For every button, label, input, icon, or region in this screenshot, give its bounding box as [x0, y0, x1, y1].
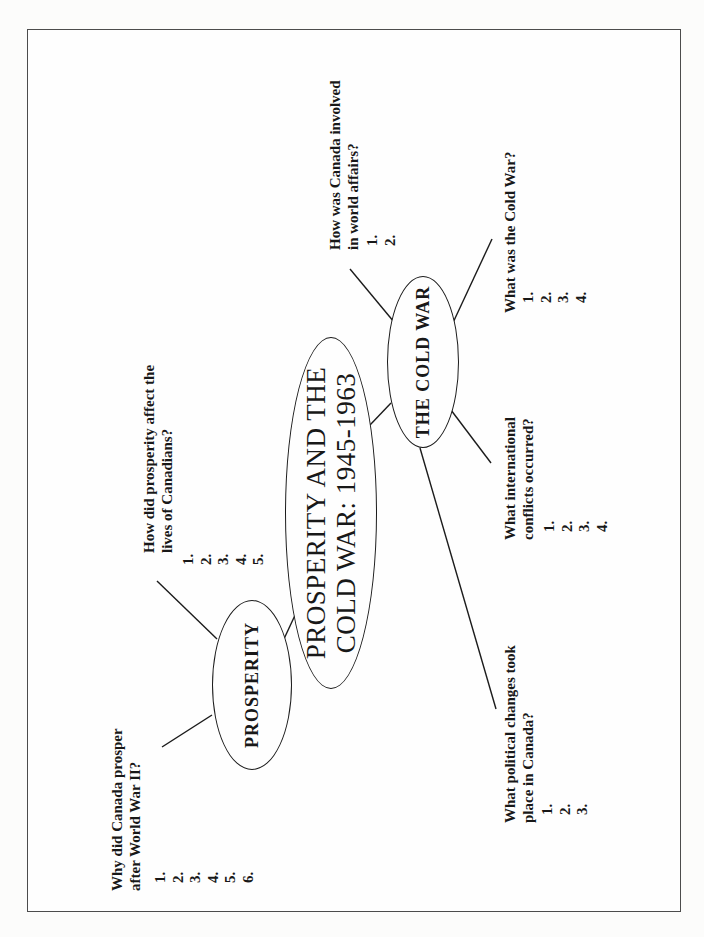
numbered-blank-list: 1. 2. 3. 4.: [520, 152, 590, 303]
list-item: 1.: [541, 417, 559, 532]
list-item: 2.: [557, 645, 575, 815]
question-line: What was the Cold War?: [501, 152, 519, 313]
question-line: What international: [501, 417, 519, 540]
question-world-affairs: How was Canada involved in world affairs…: [326, 80, 399, 250]
main-topic-line1: PROSPERITY AND THE: [301, 367, 331, 660]
numbered-blank-list: 1. 2. 3. 4. 5. 6.: [152, 728, 257, 883]
numbered-blank-list: 1. 2. 3. 4.: [541, 417, 611, 532]
list-item: 1.: [180, 365, 198, 565]
connector-coldwar-whatwas: [451, 239, 492, 327]
list-item: 3.: [576, 417, 594, 532]
question-what-was-cold-war: What was the Cold War? 1. 2. 3. 4.: [501, 152, 590, 313]
question-line: after World War II?: [126, 728, 144, 891]
list-item: 4.: [573, 152, 591, 303]
list-item: 3.: [574, 645, 592, 815]
connector-coldwar-conflicts: [451, 410, 491, 463]
diagram-canvas: PROSPERITY AND THE COLD WAR: 1945-1963 P…: [0, 0, 704, 937]
main-topic-title: PROSPERITY AND THE COLD WAR: 1945-1963: [301, 367, 361, 660]
list-item: 6.: [240, 728, 258, 883]
list-item: 4.: [233, 365, 251, 565]
list-item: 2.: [559, 417, 577, 532]
list-item: 4.: [205, 728, 223, 883]
numbered-blank-list: 1. 2. 3. 4. 5.: [180, 365, 268, 565]
main-topic-ellipse: PROSPERITY AND THE COLD WAR: 1945-1963: [285, 337, 377, 689]
question-international-conflicts: What international conflicts occurred? 1…: [501, 417, 611, 540]
question-line: place in Canada?: [519, 645, 537, 823]
question-line: lives of Canadians?: [158, 365, 176, 553]
numbered-blank-list: 1. 2. 3.: [539, 645, 592, 815]
question-line: How was Canada involved: [326, 80, 344, 250]
question-political-changes: What political changes took place in Can…: [501, 645, 592, 823]
list-item: 2.: [538, 152, 556, 303]
list-item: 2.: [198, 365, 216, 565]
list-item: 2.: [382, 80, 400, 246]
list-item: 5.: [222, 728, 240, 883]
list-item: 2.: [170, 728, 188, 883]
connector-center-coldwar: [370, 403, 391, 425]
question-line: How did prosperity affect the: [140, 365, 158, 553]
question-line: in world affairs?: [344, 80, 362, 250]
list-item: 1.: [520, 152, 538, 303]
list-item: 1.: [539, 645, 557, 815]
cold-war-ellipse: THE COLD WAR: [387, 276, 459, 448]
numbered-blank-list: 1. 2.: [364, 80, 399, 246]
list-item: 3.: [555, 152, 573, 303]
cold-war-label: THE COLD WAR: [413, 286, 434, 439]
list-item: 5.: [250, 365, 268, 565]
list-item: 1.: [364, 80, 382, 246]
list-item: 3.: [187, 728, 205, 883]
connector-coldwar-worldaffairs: [350, 269, 394, 322]
list-item: 1.: [152, 728, 170, 883]
question-line: What political changes took: [501, 645, 519, 823]
list-item: 4.: [594, 417, 612, 532]
connector-coldwar-political: [420, 448, 496, 709]
main-topic-line2: COLD WAR: 1945-1963: [331, 367, 361, 660]
question-line: Why did Canada prosper: [108, 728, 126, 891]
scanned-page: PROSPERITY AND THE COLD WAR: 1945-1963 P…: [0, 0, 704, 937]
connector-lives-prosperity: [157, 581, 217, 639]
question-line: conflicts occurred?: [519, 417, 537, 540]
list-item: 3.: [215, 365, 233, 565]
question-prosperity-lives: How did prosperity affect the lives of C…: [140, 365, 268, 553]
question-prosper-why: Why did Canada prosper after World War I…: [108, 728, 257, 891]
